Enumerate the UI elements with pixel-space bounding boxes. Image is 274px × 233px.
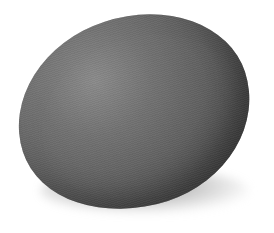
photo-scene [0, 0, 274, 233]
